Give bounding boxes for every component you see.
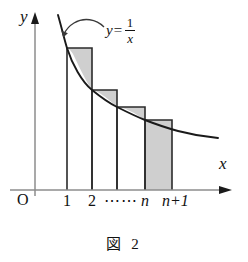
fraction-numerator: 1 xyxy=(125,16,136,30)
x-tick-label-2: 2 xyxy=(88,193,96,209)
shaded-regions xyxy=(67,48,172,190)
x-tick-label-n-plus-1: n+1 xyxy=(162,193,189,209)
figure-caption: 図 2 xyxy=(0,232,248,253)
y-axis-arrowhead xyxy=(31,12,39,24)
hyperbola-curve xyxy=(58,15,218,138)
curve-equation-fraction: 1 x xyxy=(125,16,136,45)
x-axis-label: x xyxy=(219,155,227,172)
shaded-region-bar-4-full xyxy=(145,120,172,190)
curve-equation-lhs: y= xyxy=(106,23,123,38)
shaded-region-bar-1 xyxy=(67,48,92,90)
curve-label-leader-arrow xyxy=(61,20,104,38)
origin-label: O xyxy=(17,192,29,208)
curve-equation-label: y= 1 x xyxy=(106,16,135,45)
leader-arrow-shaft xyxy=(64,20,104,34)
x-tick-label-n: n xyxy=(141,193,149,209)
fraction-denominator: x xyxy=(125,31,135,45)
x-tick-label-1: 1 xyxy=(63,193,71,209)
y-axis-label: y xyxy=(20,8,28,25)
rectangle-bar-3 xyxy=(117,107,145,190)
y-axis xyxy=(31,12,39,196)
x-axis-arrowhead xyxy=(219,186,232,194)
x-tick-label-ellipsis: ⋯⋯ xyxy=(104,193,137,209)
figure-2-container: y x O 1 2 ⋯⋯ n n+1 y= 1 x 図 2 xyxy=(0,0,248,262)
